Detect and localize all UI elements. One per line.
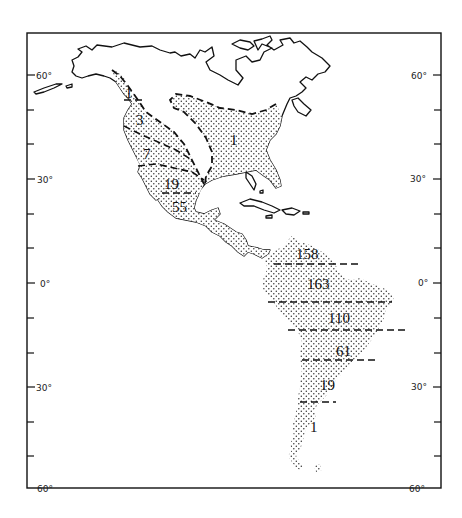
zone-label-northern-mexico: 19 [164,176,179,192]
south-america-landmass [262,236,394,470]
zone-label-central-mexico: 55 [172,199,187,215]
north-america-mainland [72,36,330,258]
lat-label-left-0: 0° [40,279,50,289]
zone-label-158: 158 [296,246,319,262]
arctic-island [232,40,254,50]
right-latitude-ticks [433,75,441,456]
zone-label-eastern-na: 1 [230,132,238,148]
tierra-del-fuego [314,464,322,472]
lat-label-right-0: 0° [418,278,428,288]
americas-map: 60° 30° 0° 30° 60° 60° 30° 0° 30° 60° [0,0,462,518]
lat-label-left-60n: 60° [36,71,52,81]
florida [246,172,256,190]
jamaica [266,215,272,218]
zone-label-163: 163 [307,276,330,292]
lat-label-right-60s: 60° [409,484,425,494]
cuba [240,199,280,213]
caribbean [240,190,309,218]
zone-label-110: 110 [328,310,350,326]
lat-label-left-30s: 30° [36,383,52,393]
bahamas [260,190,263,193]
zone-label-pacific-nw: 1 [125,85,133,101]
aleutian-island-1 [34,84,62,94]
zone-label-western-canada: 3 [136,112,144,128]
left-latitude-ticks [27,75,35,456]
zone-label-western-us: 7 [143,146,151,162]
lat-label-right-60n: 60° [411,71,427,81]
zone-label-61: 61 [336,343,351,359]
right-latitude-labels: 60° 30° 0° 30° 60° [409,71,428,494]
lat-label-left-60s: 60° [37,484,53,494]
lat-label-right-30n: 30° [410,174,426,184]
zone-label-1: 1 [310,419,318,435]
aleutian-island-2 [66,84,72,88]
hispaniola [282,208,300,215]
zone-label-19: 19 [320,377,335,393]
lat-label-left-30n: 30° [37,175,53,185]
puerto-rico [303,212,309,214]
left-latitude-labels: 60° 30° 0° 30° 60° [36,71,53,494]
newfoundland [292,98,311,116]
lat-label-right-30s: 30° [411,382,427,392]
south-america [262,236,406,472]
